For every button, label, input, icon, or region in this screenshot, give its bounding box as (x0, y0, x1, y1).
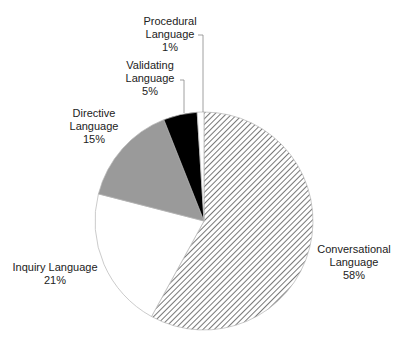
label-procedural-pct: 1% (142, 41, 198, 54)
label-directive-line1: Directive (66, 107, 122, 120)
pie-chart (0, 0, 401, 352)
validating-leader-line (180, 80, 184, 113)
label-procedural-line2: Language (142, 28, 198, 41)
label-procedural: Procedural Language 1% (142, 15, 198, 54)
procedural-leader-line (198, 35, 203, 112)
label-conversational: Conversational Language 58% (312, 243, 396, 282)
label-inquiry: Inquiry Language 21% (10, 261, 100, 287)
label-conversational-pct: 58% (312, 269, 396, 282)
label-directive-line2: Language (66, 120, 122, 133)
label-validating-line1: Validating (122, 59, 178, 72)
label-directive-pct: 15% (66, 133, 122, 146)
label-validating: Validating Language 5% (122, 59, 178, 98)
pie-slices (95, 112, 313, 330)
label-conversational-line2: Language (312, 256, 396, 269)
label-directive: Directive Language 15% (66, 107, 122, 146)
label-inquiry-pct: 21% (10, 274, 100, 287)
label-conversational-line1: Conversational (312, 243, 396, 256)
label-procedural-line1: Procedural (142, 15, 198, 28)
label-validating-pct: 5% (122, 85, 178, 98)
label-validating-line2: Language (122, 72, 178, 85)
label-inquiry-line1: Inquiry Language (10, 261, 100, 274)
